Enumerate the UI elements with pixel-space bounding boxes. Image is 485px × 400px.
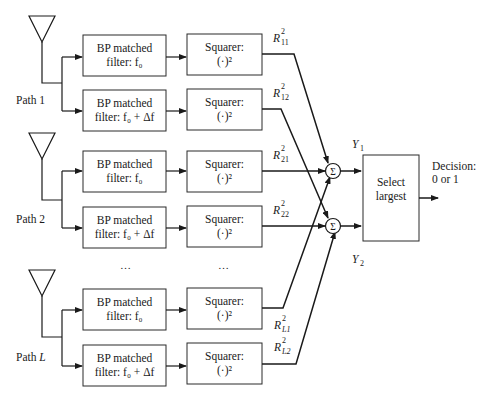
- antenna-feed-line: [42, 42, 62, 83]
- y1-label: Y 1: [352, 138, 364, 153]
- multipath-fsk-diversity-receiver-diagram: Path 1 BP matched filter: f₀ BP matched …: [0, 0, 485, 400]
- svg-text:1: 1: [360, 144, 364, 153]
- squarer-function: (·)²: [217, 172, 232, 185]
- summer-1: Σ: [326, 164, 341, 179]
- svg-text:L2: L2: [281, 347, 290, 356]
- squarer-function: (·)²: [217, 55, 232, 68]
- svg-text:2: 2: [281, 199, 285, 208]
- antenna-icon: [29, 16, 55, 42]
- decision-values: 0 or 1: [432, 173, 459, 185]
- filter-label: BP matched: [97, 296, 153, 308]
- rl2-label: R 2 L2: [273, 336, 290, 356]
- squarer-label: Squarer:: [205, 350, 244, 363]
- svg-text:22: 22: [281, 210, 289, 219]
- filter-label: BP matched: [97, 158, 153, 170]
- squarer-function: (·)²: [217, 227, 232, 240]
- rl2-line: [262, 232, 335, 364]
- svg-text:2: 2: [282, 314, 286, 323]
- svg-text:Σ: Σ: [330, 167, 336, 177]
- path-label: Path 2: [16, 213, 45, 225]
- summer-2: Σ: [326, 219, 341, 234]
- filter-freq: filter: f₀: [106, 310, 142, 322]
- path-label: Path 1: [16, 94, 45, 106]
- antenna-icon: [29, 133, 55, 159]
- svg-text:2: 2: [282, 336, 286, 345]
- svg-text:Y: Y: [352, 253, 360, 265]
- svg-text:Σ: Σ: [330, 222, 336, 232]
- r22-label: R 2 22: [272, 199, 289, 219]
- decision-label: Decision:: [432, 160, 476, 172]
- squarer-function: (·)²: [217, 364, 232, 377]
- svg-text:2: 2: [281, 144, 285, 153]
- r11-label: R 2 11: [272, 27, 289, 47]
- r21-label: R 2 21: [272, 144, 289, 164]
- svg-text:12: 12: [281, 93, 289, 102]
- svg-text:R: R: [272, 87, 280, 99]
- filter-freq: filter: f₀ + Δf: [95, 228, 155, 240]
- selector-label: largest: [376, 190, 407, 203]
- svg-text:2: 2: [281, 82, 285, 91]
- svg-text:R: R: [273, 319, 281, 331]
- squarer-label: Squarer:: [205, 96, 244, 109]
- filter-freq: filter: f₀ + Δf: [95, 366, 155, 378]
- svg-text:R: R: [272, 149, 280, 161]
- svg-text:R: R: [272, 204, 280, 216]
- filter-label: BP matched: [97, 214, 153, 226]
- rl1-line: [262, 177, 330, 308]
- squarer-label: Squarer:: [205, 41, 244, 54]
- r12-line: [262, 109, 328, 218]
- antenna-feed-line: [42, 159, 62, 200]
- filter-label: BP matched: [97, 42, 153, 54]
- path-1-group: Path 1 BP matched filter: f₀ BP matched …: [16, 16, 328, 218]
- svg-text:Y: Y: [352, 138, 360, 150]
- filter-label: BP matched: [97, 97, 153, 109]
- path-label: Path L: [16, 351, 46, 363]
- filter-label: BP matched: [97, 352, 153, 364]
- antenna-feed-line: [42, 296, 62, 337]
- filter-freq: filter: f₀: [106, 56, 142, 68]
- squarer-function: (·)²: [217, 110, 232, 123]
- r12-label: R 2 12: [272, 82, 289, 102]
- svg-text:21: 21: [281, 155, 289, 164]
- svg-text:L1: L1: [281, 325, 290, 334]
- svg-text:R: R: [273, 341, 281, 353]
- svg-text:2: 2: [360, 259, 364, 268]
- y2-label: Y 2: [352, 253, 364, 268]
- squarer-label: Squarer:: [205, 295, 244, 308]
- svg-text:Path L: Path L: [16, 351, 46, 363]
- squarer-function: (·)²: [217, 309, 232, 322]
- filter-freq: filter: f₀: [106, 172, 142, 184]
- ellipsis: …: [120, 259, 131, 271]
- rl1-label: R 2 L1: [273, 314, 290, 334]
- svg-text:2: 2: [281, 27, 285, 36]
- path-l-group: Path L BP matched filter: f₀ BP matched …: [16, 177, 335, 386]
- antenna-icon: [29, 270, 55, 296]
- filter-freq: filter: f₀ + Δf: [95, 111, 155, 123]
- svg-text:R: R: [272, 32, 280, 44]
- ellipsis: …: [218, 259, 229, 271]
- squarer-label: Squarer:: [205, 158, 244, 171]
- selector-label: Select: [377, 176, 406, 188]
- squarer-label: Squarer:: [205, 213, 244, 226]
- svg-text:11: 11: [281, 38, 289, 47]
- path-2-group: Path 2 BP matched filter: f₀ BP matched …: [16, 133, 325, 248]
